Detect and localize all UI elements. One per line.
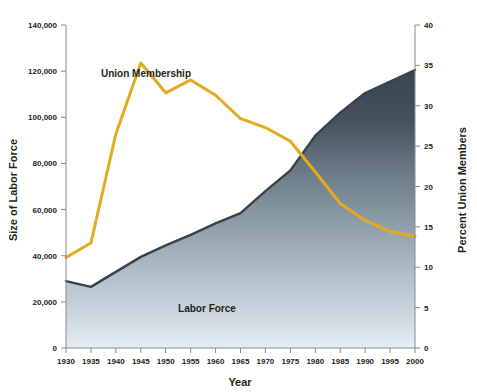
- y-tick-label-left: 20,000: [33, 298, 58, 307]
- y-tick-label-right: 0: [424, 344, 429, 353]
- y-tick-label-right: 15: [424, 223, 433, 232]
- y-tick-label-right: 30: [424, 102, 433, 111]
- y-tick-label-left: 140,000: [28, 21, 57, 30]
- plot-layer: [66, 63, 415, 348]
- y-tick-label-right: 10: [424, 263, 433, 272]
- y-tick-label-right: 40: [424, 21, 433, 30]
- chart-container: 020,00040,00060,00080,000100,000120,0001…: [0, 0, 477, 392]
- y-tick-label-right: 35: [424, 61, 433, 70]
- y-tick-label-right: 5: [424, 304, 429, 313]
- x-tick-label: 2000: [406, 357, 424, 366]
- y-tick-label-left: 120,000: [28, 67, 57, 76]
- x-tick-label: 1985: [331, 357, 349, 366]
- y-tick-label-right: 20: [424, 183, 433, 192]
- y-axis-title-right: Percent Union Members: [456, 127, 468, 253]
- union-membership-annotation: Union Membership: [101, 68, 191, 79]
- x-tick-label: 1945: [132, 357, 150, 366]
- x-tick-label: 1930: [57, 357, 75, 366]
- x-tick-label: 1950: [157, 357, 175, 366]
- x-tick-label: 1990: [356, 357, 374, 366]
- y-tick-label-right: 25: [424, 142, 433, 151]
- y-tick-label-left: 0: [53, 344, 58, 353]
- labor-force-annotation: Labor Force: [178, 303, 236, 314]
- x-axis-title: Year: [228, 376, 252, 388]
- union-labor-force-chart: 020,00040,00060,00080,000100,000120,0001…: [0, 0, 477, 392]
- x-tick-label: 1940: [107, 357, 125, 366]
- x-tick-label: 1935: [82, 357, 100, 366]
- x-tick-label: 1980: [306, 357, 324, 366]
- y-tick-label-left: 100,000: [28, 113, 57, 122]
- y-axis-title-left: Size of Labor Force: [7, 139, 19, 241]
- x-tick-label: 1960: [207, 357, 225, 366]
- x-tick-label: 1970: [257, 357, 275, 366]
- x-tick-label: 1955: [182, 357, 200, 366]
- y-tick-label-left: 60,000: [33, 206, 58, 215]
- x-tick-label: 1975: [281, 357, 299, 366]
- x-tick-label: 1995: [381, 357, 399, 366]
- y-tick-label-left: 40,000: [33, 252, 58, 261]
- x-tick-label: 1965: [232, 357, 250, 366]
- labor-force-area: [66, 70, 415, 348]
- y-tick-label-left: 80,000: [33, 159, 58, 168]
